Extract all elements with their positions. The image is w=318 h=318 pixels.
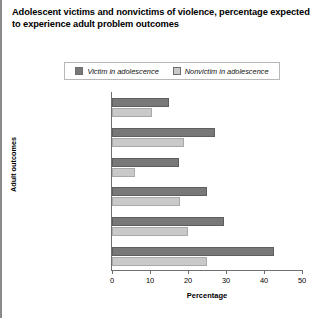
bar-victim bbox=[112, 98, 169, 107]
legend-label-victim: Victim in adolescence bbox=[87, 67, 158, 76]
x-axis-tick-label: 40 bbox=[260, 276, 268, 285]
x-axis-tick bbox=[188, 270, 189, 274]
bar-victim bbox=[112, 217, 224, 226]
y-axis-title: Adult outcomes bbox=[9, 120, 18, 210]
x-axis-title: Percentage bbox=[112, 291, 302, 300]
x-axis-tick-label: 20 bbox=[184, 276, 192, 285]
x-axis-line bbox=[111, 270, 303, 271]
legend-swatch-victim bbox=[75, 67, 83, 75]
bar-victim bbox=[112, 247, 274, 256]
x-axis-tick-label: 30 bbox=[222, 276, 230, 285]
chart-legend: Victim in adolescence Nonvictim in adole… bbox=[64, 62, 280, 80]
x-axis-tick-label: 50 bbox=[298, 276, 306, 285]
bar-nonvictim bbox=[112, 227, 188, 236]
bar-nonvictim bbox=[112, 168, 135, 177]
bar-victim bbox=[112, 158, 179, 167]
x-axis-tick bbox=[264, 270, 265, 274]
bar-nonvictim bbox=[112, 138, 184, 147]
legend-item-victim: Victim in adolescence bbox=[75, 67, 158, 76]
x-axis-tick-label: 10 bbox=[146, 276, 154, 285]
y-axis-line bbox=[111, 92, 112, 271]
chart-title: Adolescent victims and nonvictims of vio… bbox=[12, 7, 312, 30]
plot-area: 01020304050Posttraumaticstress disorderP… bbox=[112, 92, 302, 270]
bar-nonvictim bbox=[112, 197, 180, 206]
legend-item-nonvictim: Nonvictim in adolescence bbox=[173, 67, 269, 76]
x-axis-tick-label: 0 bbox=[110, 276, 114, 285]
bar-nonvictim bbox=[112, 257, 207, 266]
bar-victim bbox=[112, 187, 207, 196]
bar-victim bbox=[112, 128, 215, 137]
legend-swatch-nonvictim bbox=[173, 67, 181, 75]
bar-nonvictim bbox=[112, 108, 152, 117]
x-axis-tick bbox=[226, 270, 227, 274]
x-axis-tick bbox=[150, 270, 151, 274]
chart-figure: Adolescent victims and nonvictims of vio… bbox=[0, 0, 318, 318]
legend-label-nonvictim: Nonvictim in adolescence bbox=[185, 67, 269, 76]
x-axis-tick bbox=[302, 270, 303, 274]
x-axis-tick bbox=[112, 270, 113, 274]
